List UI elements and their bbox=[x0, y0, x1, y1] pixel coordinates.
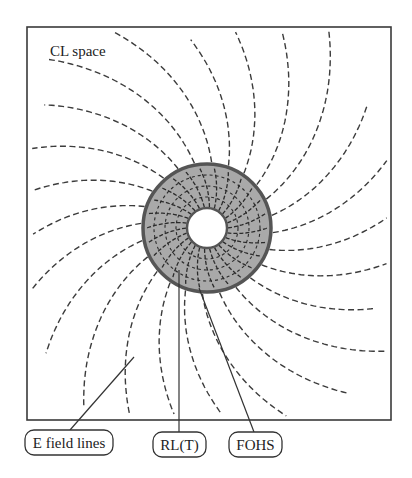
leader-line-e-field-lines bbox=[70, 357, 134, 430]
label-text-fohs: FOHS bbox=[236, 437, 274, 453]
e-field-line bbox=[236, 287, 385, 351]
e-field-line bbox=[236, 32, 255, 173]
label-fohs: FOHS bbox=[199, 288, 282, 457]
label-e-field-lines: E field lines bbox=[25, 357, 134, 455]
e-field-line bbox=[125, 271, 157, 413]
e-field-line bbox=[202, 294, 286, 416]
e-field-line bbox=[115, 33, 212, 163]
label-rl-t: RL(T) bbox=[153, 270, 206, 457]
e-field-line bbox=[266, 32, 330, 199]
e-field-line bbox=[185, 290, 222, 413]
label-text-e-field-lines: E field lines bbox=[33, 435, 106, 451]
e-field-line bbox=[32, 146, 164, 178]
e-field-line bbox=[262, 264, 387, 276]
e-field-line bbox=[269, 218, 386, 251]
leader-line-fohs bbox=[199, 288, 254, 432]
e-field-line bbox=[49, 60, 194, 164]
e-field-line bbox=[272, 106, 367, 215]
callout-labels: E field lines RL(T) FOHS bbox=[25, 270, 282, 457]
e-field-line bbox=[220, 293, 347, 393]
e-field-line bbox=[34, 180, 152, 191]
e-field-line bbox=[84, 257, 148, 406]
e-field-line bbox=[257, 32, 289, 185]
label-text-rl-t: RL(T) bbox=[160, 437, 198, 454]
cl-space-diagram: CL space E field lines RL(T) FOHS bbox=[0, 0, 412, 478]
e-field-line bbox=[33, 206, 145, 235]
ring-center-hole bbox=[187, 208, 227, 248]
ring-fohs bbox=[143, 164, 271, 292]
e-field-line bbox=[159, 283, 174, 414]
e-field-line bbox=[273, 161, 387, 233]
e-field-line bbox=[44, 105, 178, 169]
e-field-line bbox=[250, 278, 374, 310]
diagram-title: CL space bbox=[50, 43, 106, 59]
e-field-line bbox=[191, 40, 230, 166]
